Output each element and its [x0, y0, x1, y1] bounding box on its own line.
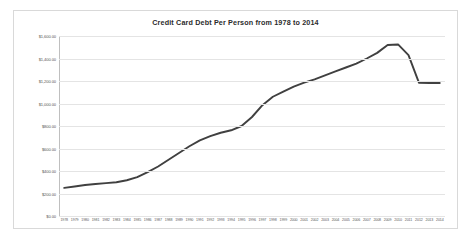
gridline [59, 104, 445, 105]
x-tick-label: 1986 [144, 218, 152, 222]
x-tick-label: 2006 [353, 218, 361, 222]
y-tick-label: $1,400.00 [39, 56, 56, 61]
x-tick-label: 1997 [259, 218, 267, 222]
x-tick-label: 1988 [165, 218, 173, 222]
plot-area [59, 36, 445, 216]
x-tick-label: 2007 [363, 218, 371, 222]
x-tick-label: 2005 [342, 218, 350, 222]
x-tick-label: 1985 [133, 218, 141, 222]
x-axis-tick-labels: 1978197919801981198219831984198519861987… [59, 218, 445, 230]
gridline [59, 59, 445, 60]
y-axis-tick-labels: $0.00$200.00$400.00$600.00$800.00$1,000.… [14, 36, 56, 216]
x-tick-label: 1987 [154, 218, 162, 222]
x-tick-label: 1994 [227, 218, 235, 222]
x-tick-label: 1978 [60, 218, 68, 222]
x-tick-label: 1984 [123, 218, 131, 222]
gridline [59, 126, 445, 127]
x-tick-label: 1980 [81, 218, 89, 222]
x-tick-label: 2009 [384, 218, 392, 222]
x-tick-label: 1991 [196, 218, 204, 222]
x-tick-label: 1998 [269, 218, 277, 222]
x-tick-label: 2012 [415, 218, 423, 222]
y-tick-label: $1,200.00 [39, 79, 56, 84]
gridline [59, 36, 445, 37]
y-tick-label: $200.00 [42, 191, 56, 196]
x-tick-label: 2001 [300, 218, 308, 222]
x-tick-label: 1996 [248, 218, 256, 222]
x-tick-label: 2008 [373, 218, 381, 222]
x-tick-label: 1993 [217, 218, 225, 222]
chart-title: Credit Card Debt Per Person from 1978 to… [14, 18, 457, 27]
x-tick-label: 2002 [311, 218, 319, 222]
x-tick-label: 1982 [102, 218, 110, 222]
x-tick-label: 1979 [71, 218, 79, 222]
y-tick-label: $0.00 [46, 214, 56, 219]
gridline [59, 171, 445, 172]
x-tick-label: 2000 [290, 218, 298, 222]
y-tick-label: $600.00 [42, 146, 56, 151]
x-tick-label: 1983 [113, 218, 121, 222]
y-tick-label: $400.00 [42, 169, 56, 174]
x-tick-label: 2003 [321, 218, 329, 222]
x-tick-label: 1995 [238, 218, 246, 222]
x-tick-label: 1990 [186, 218, 194, 222]
series-polyline [64, 44, 440, 187]
gridline [59, 194, 445, 195]
y-tick-label: $800.00 [42, 124, 56, 129]
chart-frame: Credit Card Debt Per Person from 1978 to… [13, 10, 458, 229]
x-tick-label: 1999 [279, 218, 287, 222]
x-tick-label: 2010 [394, 218, 402, 222]
x-tick-label: 2014 [436, 218, 444, 222]
gridline [59, 149, 445, 150]
x-tick-label: 1981 [92, 218, 100, 222]
gridline [59, 81, 445, 82]
y-tick-label: $1,000.00 [39, 101, 56, 106]
x-tick-label: 1989 [175, 218, 183, 222]
x-tick-label: 2004 [332, 218, 340, 222]
x-tick-label: 2013 [426, 218, 434, 222]
gridline [59, 216, 445, 217]
y-tick-label: $1,600.00 [39, 34, 56, 39]
x-tick-label: 1992 [206, 218, 214, 222]
x-tick-label: 2011 [405, 218, 412, 222]
